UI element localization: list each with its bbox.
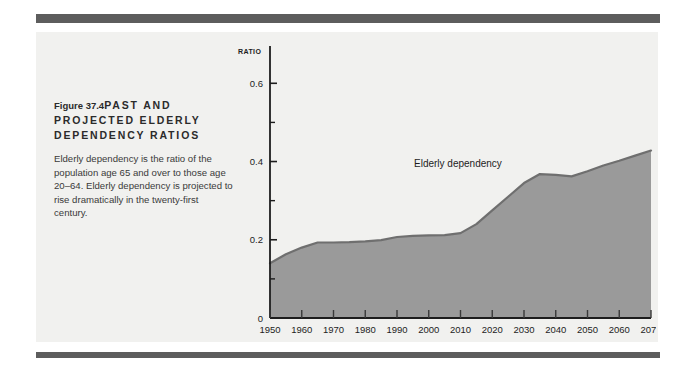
figure-number: Figure 37.4 [54, 100, 104, 111]
x-tick-label: 2000 [418, 324, 439, 335]
y-tick-label: 0.2 [250, 234, 263, 245]
x-tick-label: 2030 [513, 324, 534, 335]
x-tick-label: 2070 [640, 324, 656, 335]
x-tick-label: 1980 [355, 324, 376, 335]
x-tick-label: 2050 [577, 324, 598, 335]
area-fill [270, 151, 651, 318]
x-tick-label: 1990 [386, 324, 407, 335]
elderly-dependency-area-chart: 00.20.40.6195019601970198019902000201020… [236, 40, 656, 340]
top-rule [36, 14, 660, 23]
chart-canvas: 00.20.40.6195019601970198019902000201020… [236, 40, 656, 340]
x-tick-label: 2010 [450, 324, 471, 335]
bottom-rule [36, 352, 660, 358]
figure-heading: Figure 37.4PAST AND PROJECTED ELDERLY DE… [54, 98, 234, 143]
y-tick-label: 0.4 [250, 156, 263, 167]
x-tick-label: 2020 [482, 324, 503, 335]
figure-description: Elderly dependency is the ratio of the p… [54, 152, 234, 220]
x-tick-label: 1950 [259, 324, 280, 335]
x-tick-label: 1960 [291, 324, 312, 335]
x-tick-label: 2040 [545, 324, 566, 335]
x-tick-label: 1970 [323, 324, 344, 335]
figure-caption: Figure 37.4PAST AND PROJECTED ELDERLY DE… [54, 98, 234, 220]
y-tick-label: 0.6 [250, 78, 263, 89]
x-tick-label: 2060 [609, 324, 630, 335]
y-tick-label: 0 [258, 313, 263, 324]
